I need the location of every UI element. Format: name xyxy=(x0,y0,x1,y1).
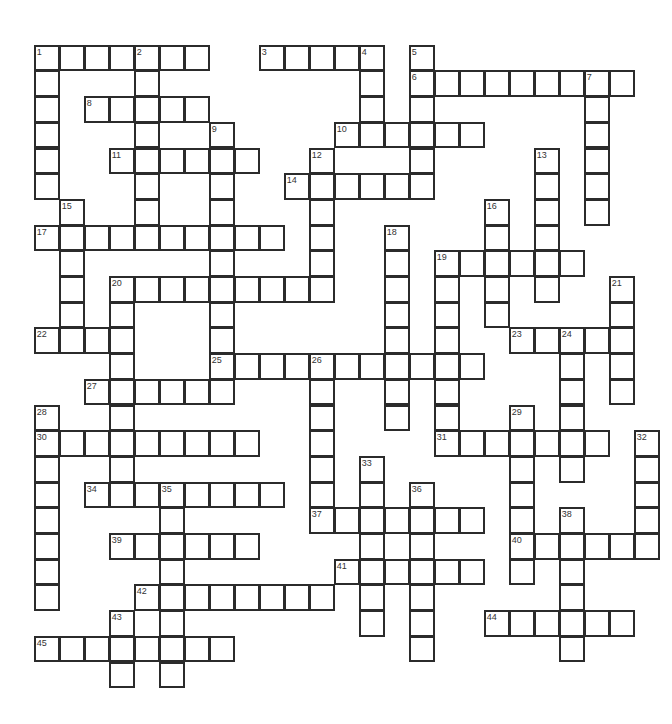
grid-cell[interactable]: 14 xyxy=(284,173,310,200)
grid-cell[interactable] xyxy=(459,353,485,380)
grid-cell[interactable]: 16 xyxy=(484,199,510,226)
grid-cell[interactable] xyxy=(409,122,435,149)
grid-cell[interactable]: 28 xyxy=(34,405,60,432)
grid-cell[interactable] xyxy=(584,173,610,200)
grid-cell[interactable] xyxy=(109,353,135,380)
grid-cell[interactable] xyxy=(459,70,485,97)
grid-cell[interactable]: 39 xyxy=(109,533,135,560)
grid-cell[interactable]: 33 xyxy=(359,456,385,483)
grid-cell[interactable] xyxy=(134,225,160,252)
grid-cell[interactable] xyxy=(409,96,435,123)
grid-cell[interactable] xyxy=(34,173,60,200)
grid-cell[interactable] xyxy=(359,610,385,637)
grid-cell[interactable] xyxy=(359,559,385,586)
grid-cell[interactable] xyxy=(109,96,135,123)
grid-cell[interactable] xyxy=(509,559,535,586)
grid-cell[interactable] xyxy=(59,430,85,457)
grid-cell[interactable] xyxy=(134,379,160,406)
grid-cell[interactable] xyxy=(309,379,335,406)
grid-cell[interactable]: 29 xyxy=(509,405,535,432)
grid-cell[interactable] xyxy=(484,276,510,303)
grid-cell[interactable]: 35 xyxy=(159,482,185,509)
grid-cell[interactable] xyxy=(259,584,285,611)
grid-cell[interactable]: 15 xyxy=(59,199,85,226)
grid-cell[interactable]: 9 xyxy=(209,122,235,149)
grid-cell[interactable] xyxy=(234,353,260,380)
grid-cell[interactable] xyxy=(434,507,460,534)
grid-cell[interactable] xyxy=(459,559,485,586)
grid-cell[interactable] xyxy=(334,353,360,380)
grid-cell[interactable] xyxy=(309,173,335,200)
grid-cell[interactable] xyxy=(184,225,210,252)
grid-cell[interactable] xyxy=(559,379,585,406)
grid-cell[interactable] xyxy=(434,122,460,149)
grid-cell[interactable] xyxy=(609,533,635,560)
grid-cell[interactable] xyxy=(509,456,535,483)
grid-cell[interactable] xyxy=(259,353,285,380)
grid-cell[interactable] xyxy=(34,482,60,509)
grid-cell[interactable] xyxy=(184,148,210,175)
grid-cell[interactable] xyxy=(109,456,135,483)
grid-cell[interactable] xyxy=(384,250,410,277)
grid-cell[interactable] xyxy=(384,353,410,380)
grid-cell[interactable] xyxy=(609,353,635,380)
grid-cell[interactable] xyxy=(609,70,635,97)
grid-cell[interactable] xyxy=(484,430,510,457)
grid-cell[interactable] xyxy=(109,636,135,663)
grid-cell[interactable] xyxy=(209,430,235,457)
grid-cell[interactable] xyxy=(109,302,135,329)
grid-cell[interactable] xyxy=(359,507,385,534)
grid-cell[interactable] xyxy=(59,636,85,663)
grid-cell[interactable] xyxy=(109,379,135,406)
grid-cell[interactable] xyxy=(559,533,585,560)
grid-cell[interactable] xyxy=(234,533,260,560)
grid-cell[interactable] xyxy=(59,302,85,329)
grid-cell[interactable] xyxy=(409,610,435,637)
grid-cell[interactable] xyxy=(184,533,210,560)
grid-cell[interactable]: 19 xyxy=(434,250,460,277)
grid-cell[interactable]: 11 xyxy=(109,148,135,175)
grid-cell[interactable] xyxy=(309,45,335,72)
grid-cell[interactable] xyxy=(34,559,60,586)
grid-cell[interactable] xyxy=(584,122,610,149)
grid-cell[interactable] xyxy=(184,430,210,457)
grid-cell[interactable]: 8 xyxy=(84,96,110,123)
grid-cell[interactable]: 34 xyxy=(84,482,110,509)
grid-cell[interactable] xyxy=(309,225,335,252)
grid-cell[interactable] xyxy=(84,225,110,252)
grid-cell[interactable] xyxy=(609,610,635,637)
grid-cell[interactable]: 45 xyxy=(34,636,60,663)
grid-cell[interactable] xyxy=(184,482,210,509)
grid-cell[interactable] xyxy=(259,225,285,252)
grid-cell[interactable]: 32 xyxy=(634,430,660,457)
grid-cell[interactable] xyxy=(134,430,160,457)
grid-cell[interactable]: 6 xyxy=(409,70,435,97)
grid-cell[interactable] xyxy=(584,96,610,123)
grid-cell[interactable] xyxy=(209,636,235,663)
grid-cell[interactable] xyxy=(134,199,160,226)
grid-cell[interactable] xyxy=(209,327,235,354)
grid-cell[interactable] xyxy=(384,327,410,354)
grid-cell[interactable] xyxy=(559,636,585,663)
grid-cell[interactable] xyxy=(34,584,60,611)
grid-cell[interactable] xyxy=(309,405,335,432)
grid-cell[interactable]: 5 xyxy=(409,45,435,72)
grid-cell[interactable] xyxy=(159,148,185,175)
grid-cell[interactable] xyxy=(384,302,410,329)
grid-cell[interactable] xyxy=(34,507,60,534)
grid-cell[interactable] xyxy=(84,430,110,457)
grid-cell[interactable] xyxy=(459,507,485,534)
grid-cell[interactable] xyxy=(534,430,560,457)
grid-cell[interactable] xyxy=(359,122,385,149)
grid-cell[interactable] xyxy=(234,225,260,252)
grid-cell[interactable] xyxy=(59,45,85,72)
grid-cell[interactable]: 27 xyxy=(84,379,110,406)
grid-cell[interactable] xyxy=(434,327,460,354)
grid-cell[interactable]: 2 xyxy=(134,45,160,72)
grid-cell[interactable] xyxy=(534,276,560,303)
grid-cell[interactable] xyxy=(384,276,410,303)
grid-cell[interactable] xyxy=(259,276,285,303)
grid-cell[interactable] xyxy=(34,70,60,97)
grid-cell[interactable] xyxy=(109,225,135,252)
grid-cell[interactable] xyxy=(584,148,610,175)
